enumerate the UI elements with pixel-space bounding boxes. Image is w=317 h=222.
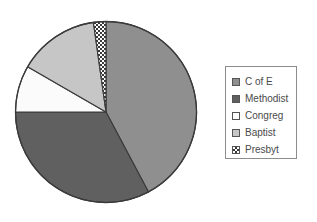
pie-chart-figure: C of E Methodist Congreg Baptist Presbyt	[0, 0, 317, 222]
pie-slices-group	[16, 22, 197, 203]
swatch-light-gray-icon	[232, 129, 240, 137]
swatch-checkered-icon	[232, 146, 240, 154]
swatch-white-icon	[232, 112, 240, 120]
legend-label-methodist: Methodist	[245, 93, 288, 104]
swatch-dark-gray-icon	[232, 95, 240, 103]
legend-label-presbyt: Presbyt	[245, 144, 279, 155]
swatch-medium-gray-icon	[232, 78, 240, 86]
legend-item-baptist[interactable]: Baptist	[232, 124, 296, 141]
legend-label-baptist: Baptist	[245, 127, 276, 138]
legend-label-c-of-e: C of E	[245, 76, 273, 87]
chart-legend: C of E Methodist Congreg Baptist Presbyt	[225, 66, 297, 159]
legend-item-congreg[interactable]: Congreg	[232, 107, 296, 124]
legend-item-c-of-e[interactable]: C of E	[232, 73, 296, 90]
legend-item-methodist[interactable]: Methodist	[232, 90, 296, 107]
legend-label-congreg: Congreg	[245, 110, 283, 121]
legend-item-presbyt[interactable]: Presbyt	[232, 141, 296, 158]
